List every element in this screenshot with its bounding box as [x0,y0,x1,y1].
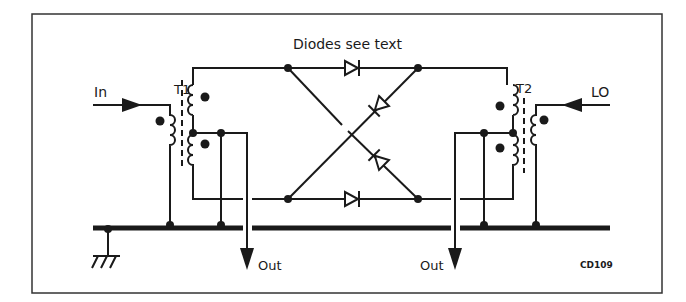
node [480,129,488,137]
node [480,221,488,229]
node [532,221,540,229]
mixer-schematic: Diodes see text In LO T1 T2 Out Out CD10… [0,0,686,302]
polarity-dot [496,102,505,111]
node [284,64,292,72]
bottom-rail-wire-left [193,180,243,199]
cross-wire-down [288,68,342,125]
node [414,64,422,72]
node [166,221,174,229]
t1-label: T1 [173,82,190,97]
polarity-dot [540,116,549,125]
diode-top [345,60,359,76]
diode-bottom [345,191,359,207]
diodes-note-label: Diodes see text [293,36,403,52]
lo-arrow-icon [562,98,582,112]
output-right-arrow-icon [448,248,462,270]
output-left-arrow-icon [240,248,254,270]
node [217,221,225,229]
figure-frame [32,14,662,293]
output-right-label: Out [420,258,444,273]
polarity-dot [201,140,210,149]
polarity-dot [201,93,210,102]
polarity-dot [156,117,165,126]
bottom-rail-wire-right [460,180,513,199]
lo-label: LO [591,84,609,100]
input-label: In [94,84,107,100]
t2-label: T2 [515,81,532,96]
input-arrow-icon [122,98,142,112]
polarity-dot [496,144,505,153]
node [189,129,197,137]
node [217,129,225,137]
node [509,129,517,137]
output-left-label: Out [258,258,282,273]
figure-code-label: CD109 [580,260,613,270]
ground-stub [92,228,120,268]
node [284,195,292,203]
node [104,225,112,233]
node [414,195,422,203]
